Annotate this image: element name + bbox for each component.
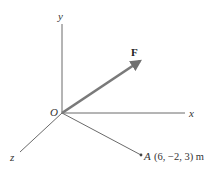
vector-diagram: y x z O A (6, −2, 3) m F xyxy=(0,0,222,176)
point-A-coordinates: (6, −2, 3) m xyxy=(154,151,204,163)
point-A-label: A xyxy=(143,150,151,162)
z-axis xyxy=(20,113,62,152)
force-label-F: F xyxy=(131,46,138,58)
z-axis-label: z xyxy=(9,151,15,163)
force-vector-F xyxy=(62,61,140,113)
x-axis-label: x xyxy=(188,107,194,119)
origin-label: O xyxy=(50,106,58,118)
y-axis-label: y xyxy=(57,10,63,22)
position-line-OA xyxy=(62,113,141,155)
point-A-dot xyxy=(140,154,143,157)
